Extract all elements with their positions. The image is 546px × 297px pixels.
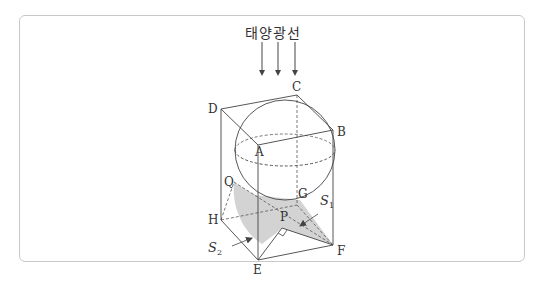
- label-g: G: [298, 187, 308, 201]
- label-d: D: [208, 102, 218, 116]
- s2-pointer-arrow-icon: [232, 238, 252, 246]
- label-b: B: [337, 125, 346, 139]
- cube-sphere-diagram: D C B A H G F E Q P S1 S2: [0, 0, 546, 297]
- label-f: F: [337, 244, 345, 258]
- sunlight-arrows-icon: [259, 42, 298, 76]
- label-h: H: [208, 213, 218, 227]
- label-s1: S1: [320, 193, 334, 210]
- label-s2: S2: [208, 240, 222, 257]
- label-q: Q: [224, 175, 234, 189]
- label-p: P: [280, 210, 288, 224]
- label-e: E: [253, 263, 262, 277]
- label-c: C: [292, 80, 301, 94]
- label-a: A: [254, 145, 264, 159]
- sphere: [235, 100, 335, 200]
